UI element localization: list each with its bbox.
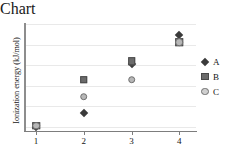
legend-label: B: [213, 72, 219, 82]
y-axis-title: Ionization energy (kJ/mol): [12, 19, 21, 143]
x-tick-label: 3: [123, 136, 141, 146]
data-point-C-4: [175, 38, 183, 46]
legend-item-B[interactable]: B: [199, 69, 220, 84]
x-axis-line: [24, 131, 197, 132]
gridline: [24, 24, 196, 25]
x-tick: [84, 131, 85, 135]
legend-label: C: [213, 87, 219, 97]
data-point-B-2: [80, 76, 88, 84]
gridline: [24, 106, 196, 107]
data-point-B-3: [128, 58, 136, 66]
plot-area: [24, 24, 196, 131]
data-point-C-1: [32, 122, 40, 130]
x-tick: [36, 131, 37, 135]
circle-marker-icon: [199, 88, 211, 95]
x-tick-label: 4: [170, 136, 188, 146]
legend-label: A: [213, 57, 220, 67]
data-point-C-2: [80, 93, 88, 101]
diamond-marker-icon: [199, 59, 211, 65]
scatter-chart: Ionization energy (kJ/mol) 1234 Ionizati…: [0, 18, 227, 148]
gridline: [24, 45, 196, 46]
legend-item-A[interactable]: A: [199, 54, 220, 69]
y-axis-line: [24, 23, 26, 132]
chart-legend: ABC: [199, 54, 220, 99]
gridline: [24, 86, 196, 87]
data-point-A-2: [79, 109, 87, 117]
x-tick: [132, 131, 133, 135]
data-point-C-3: [128, 76, 136, 84]
legend-item-C[interactable]: C: [199, 84, 220, 99]
x-tick-label: 2: [75, 136, 93, 146]
x-tick-label: 1: [27, 136, 45, 146]
square-marker-icon: [199, 73, 211, 81]
x-tick: [179, 131, 180, 135]
gridline: [24, 127, 196, 128]
gridline: [24, 65, 196, 66]
